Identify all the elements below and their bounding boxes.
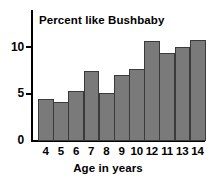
y-tick-label: 5 [0, 87, 24, 99]
bar [159, 53, 175, 141]
bar [114, 75, 130, 140]
x-tick-label: 12 [144, 145, 159, 158]
x-tick-label: 13 [175, 145, 190, 158]
x-axis-tick-labels: 4567891012111314 [38, 145, 205, 159]
x-tick-label: 11 [159, 145, 174, 158]
bar [53, 102, 69, 140]
x-tick-label: 14 [190, 145, 205, 158]
bar-chart: 0510 Percent like Bushbaby 4567891012111… [0, 0, 216, 181]
y-axis-tick-labels: 0510 [0, 0, 24, 181]
x-tick-label: 6 [68, 145, 83, 158]
y-tick-mark [26, 46, 32, 48]
bar [129, 69, 145, 141]
bar [190, 40, 206, 140]
x-tick-label: 4 [38, 145, 53, 158]
x-tick-label: 7 [84, 145, 99, 158]
bar [38, 99, 54, 140]
x-tick-label: 9 [114, 145, 129, 158]
x-tick-label: 5 [53, 145, 68, 158]
x-axis-title: Age in years [0, 162, 216, 174]
y-tick-label: 10 [0, 41, 24, 53]
y-tick-mark [26, 93, 32, 95]
bar [99, 93, 115, 141]
bar [144, 41, 160, 140]
x-tick-label: 10 [129, 145, 144, 158]
bar [175, 47, 191, 141]
bar [68, 91, 84, 141]
y-tick-label: 0 [0, 134, 24, 146]
bar [84, 71, 100, 140]
bar-series [38, 10, 205, 141]
y-axis-line [31, 10, 33, 141]
plot-area [38, 10, 205, 141]
x-tick-label: 8 [99, 145, 114, 158]
